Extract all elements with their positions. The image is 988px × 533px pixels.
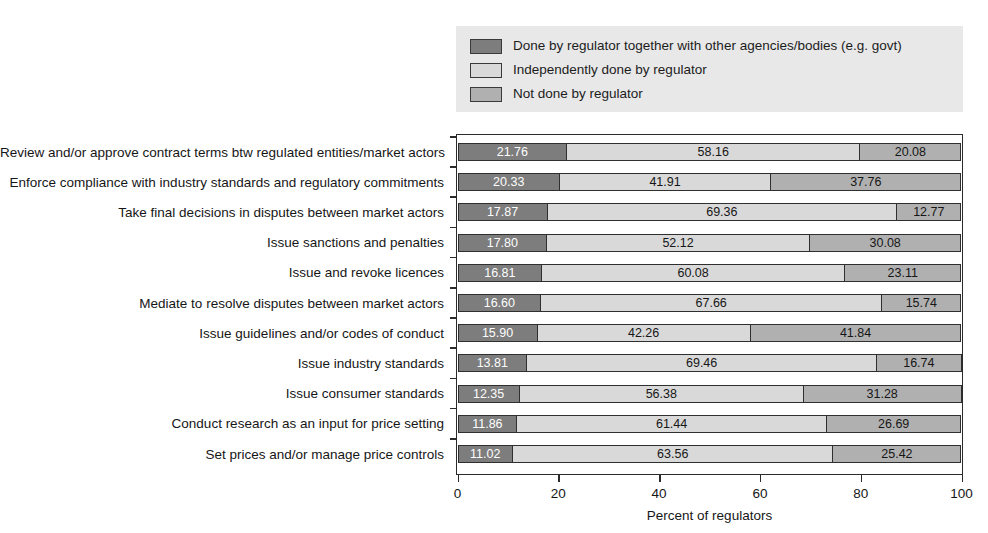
bar-row[interactable]: 11.0263.5625.42 (458, 445, 962, 463)
category-label: Review and/or approve contract terms btw… (0, 145, 450, 160)
bar-segment[interactable]: 12.35 (458, 385, 520, 403)
bar-segment[interactable]: 17.80 (458, 234, 548, 252)
bar-segment[interactable]: 25.42 (833, 445, 961, 463)
x-axis-tick (861, 475, 863, 482)
bar-segment[interactable]: 41.84 (751, 324, 962, 342)
category-label: Issue consumer standards (0, 386, 450, 401)
bar-segment[interactable]: 56.38 (520, 385, 804, 403)
category-label: Enforce compliance with industry standar… (0, 175, 450, 190)
bar-value-label: 13.81 (459, 357, 527, 370)
legend-item-label: Independently done by regulator (513, 63, 707, 77)
bar-value-label: 42.26 (538, 327, 750, 340)
legend-swatch-icon (470, 87, 502, 102)
chart-legend: Done by regulator together with other ag… (456, 26, 963, 112)
bar-value-label: 11.86 (459, 417, 517, 430)
bar-segment[interactable]: 16.81 (458, 264, 543, 282)
bar-row[interactable]: 21.7658.1620.08 (458, 143, 962, 161)
bar-segment[interactable]: 61.44 (517, 415, 827, 433)
bar-segment[interactable]: 30.08 (810, 234, 962, 252)
category-label: Set prices and/or manage price controls (0, 447, 450, 462)
legend-swatch-icon (470, 39, 502, 54)
bar-value-label: 61.44 (517, 417, 826, 430)
bar-segment[interactable]: 41.91 (560, 173, 771, 191)
legend-item[interactable]: Independently done by regulator (470, 58, 963, 82)
x-axis-tick (458, 475, 460, 482)
bar-segment[interactable]: 16.74 (877, 354, 961, 372)
bar-value-label: 41.91 (560, 176, 770, 189)
bar-segment[interactable]: 26.69 (827, 415, 962, 433)
legend-item[interactable]: Done by regulator together with other ag… (470, 34, 963, 58)
bar-value-label: 17.87 (459, 206, 547, 219)
bar-row[interactable]: 13.8169.4616.74 (458, 354, 962, 372)
bar-segment[interactable]: 21.76 (458, 143, 568, 161)
bar-segment[interactable]: 52.12 (547, 234, 810, 252)
bar-segment[interactable]: 31.28 (804, 385, 962, 403)
bar-value-label: 16.60 (459, 297, 541, 310)
bar-rows: 21.7658.1620.0820.3341.9137.7617.8769.36… (456, 134, 963, 475)
bar-segment[interactable]: 63.56 (513, 445, 833, 463)
bar-segment[interactable]: 20.08 (860, 143, 961, 161)
category-label: Issue and revoke licences (0, 265, 450, 280)
bar-segment[interactable]: 20.33 (458, 173, 560, 191)
bar-value-label: 58.16 (567, 146, 859, 159)
bar-segment[interactable]: 12.77 (897, 203, 961, 221)
bar-segment[interactable]: 37.76 (771, 173, 961, 191)
bar-row[interactable]: 17.8769.3612.77 (458, 203, 962, 221)
bar-value-label: 15.90 (459, 327, 537, 340)
bar-segment[interactable]: 15.90 (458, 324, 538, 342)
bar-value-label: 60.08 (542, 266, 844, 279)
bar-value-label: 25.42 (833, 448, 960, 461)
bar-row[interactable]: 16.8160.0823.11 (458, 264, 962, 282)
bar-segment[interactable]: 13.81 (458, 354, 528, 372)
x-axis-tick-label: 100 (950, 486, 973, 501)
stacked-bar-chart: Done by regulator together with other ag… (0, 0, 988, 533)
x-axis-tick (659, 475, 661, 482)
x-axis-tick-label: 40 (652, 486, 667, 501)
category-label: Conduct research as an input for price s… (0, 416, 450, 431)
x-axis-tick-label: 60 (752, 486, 767, 501)
category-label: Take final decisions in disputes between… (0, 205, 450, 220)
bar-row[interactable]: 15.9042.2641.84 (458, 324, 962, 342)
bar-value-label: 21.76 (459, 146, 567, 159)
bar-segment[interactable]: 60.08 (542, 264, 845, 282)
legend-item[interactable]: Not done by regulator (470, 82, 963, 106)
bar-segment[interactable]: 67.66 (541, 294, 882, 312)
x-axis-title: Percent of regulators (456, 508, 963, 523)
bar-segment[interactable]: 15.74 (882, 294, 961, 312)
category-label: Issue industry standards (0, 356, 450, 371)
category-label: Mediate to resolve disputes between mark… (0, 296, 450, 311)
bar-value-label: 41.84 (751, 327, 961, 340)
legend-swatch-icon (470, 63, 502, 78)
bar-row[interactable]: 16.6067.6615.74 (458, 294, 962, 312)
bar-segment[interactable]: 17.87 (458, 203, 548, 221)
bar-value-label: 67.66 (541, 297, 881, 310)
bar-value-label: 63.56 (513, 448, 832, 461)
bar-value-label: 30.08 (810, 236, 961, 249)
bar-segment[interactable]: 69.36 (548, 203, 898, 221)
bar-segment[interactable]: 11.86 (458, 415, 518, 433)
category-label: Issue guidelines and/or codes of conduct (0, 326, 450, 341)
x-axis-tick-label: 0 (454, 486, 462, 501)
category-label: Issue sanctions and penalties (0, 235, 450, 250)
bar-value-label: 69.36 (548, 206, 897, 219)
bar-segment[interactable]: 16.60 (458, 294, 542, 312)
bar-value-label: 15.74 (882, 297, 960, 310)
bar-value-label: 52.12 (547, 236, 809, 249)
bar-segment[interactable]: 23.11 (845, 264, 961, 282)
bar-value-label: 69.46 (527, 357, 876, 370)
bar-segment[interactable]: 58.16 (567, 143, 860, 161)
bar-row[interactable]: 11.8661.4426.69 (458, 415, 962, 433)
bar-value-label: 20.08 (860, 146, 960, 159)
bar-row[interactable]: 12.3556.3831.28 (458, 385, 962, 403)
x-axis-tick-label: 80 (853, 486, 868, 501)
bar-value-label: 17.80 (459, 236, 547, 249)
bar-row[interactable]: 17.8052.1230.08 (458, 234, 962, 252)
bar-segment[interactable]: 42.26 (538, 324, 751, 342)
bar-segment[interactable]: 11.02 (458, 445, 514, 463)
bar-value-label: 26.69 (827, 417, 961, 430)
bar-row[interactable]: 20.3341.9137.76 (458, 173, 962, 191)
x-axis-tick-label: 20 (551, 486, 566, 501)
bar-segment[interactable]: 69.46 (527, 354, 877, 372)
bar-value-label: 31.28 (804, 387, 961, 400)
bar-value-label: 37.76 (771, 176, 960, 189)
